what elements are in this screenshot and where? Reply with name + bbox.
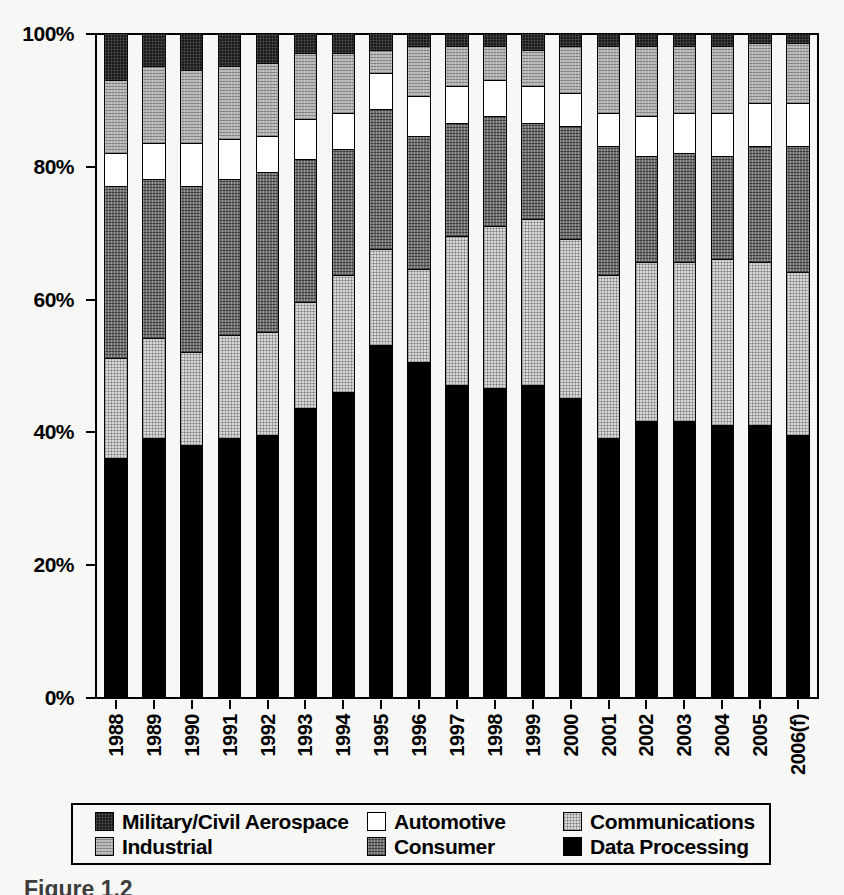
x-axis-tick-label: 1998 [484,714,507,757]
x-axis: 1988198919901991199219931994199519961997… [97,700,817,800]
legend-label: Consumer [394,835,495,859]
x-axis-tick-mark [191,700,193,709]
figure-container: 0%20%40%60%80%100% 198819891990199119921… [0,0,844,895]
bar-segment-military-civil-aerospace [446,34,467,47]
bar-segment-industrial [560,47,581,93]
bar-segment-military-civil-aerospace [787,34,808,44]
legend-item-industrial: Industrial [95,834,213,860]
bar-2002 [635,34,658,698]
bar-segment-data-processing [446,386,467,698]
bar-segment-communications [143,339,164,439]
bar-segment-consumer [598,147,619,276]
bar-segment-military-civil-aerospace [408,34,429,47]
bar-1997 [445,34,468,698]
bar-1994 [332,34,355,698]
x-axis-tick-mark [115,700,117,709]
legend-label: Communications [590,810,755,834]
bar-segment-industrial [370,51,391,74]
bar-segment-data-processing [408,363,429,698]
y-axis-tick-mark [86,33,95,35]
y-axis: 0%20%40%60%80%100% [0,0,86,712]
legend-label: Automotive [394,810,506,834]
y-axis-tick-label: 20% [33,553,74,577]
bar-2001 [597,34,620,698]
communications-swatch-icon [563,812,582,831]
bar-segment-military-civil-aerospace [333,34,354,54]
x-axis-tick-label: 2003 [673,714,696,757]
x-axis-tick-mark [380,700,382,709]
bar-segment-communications [787,273,808,436]
x-axis-tick-mark [608,700,610,709]
x-axis-tick-label: 2001 [598,714,621,757]
bar-segment-data-processing [749,426,770,698]
bar-segment-industrial [636,47,657,117]
x-axis-tick-mark [267,700,269,709]
bar-1988 [104,34,127,698]
bar-segment-data-processing [370,346,391,698]
bar-segment-consumer [674,154,695,264]
x-axis-tick-mark [797,700,799,709]
bar-segment-automotive [636,117,657,157]
legend-item-automotive: Automotive [367,809,506,835]
bar-segment-consumer [636,157,657,263]
x-axis-tick-mark [494,700,496,709]
y-axis-tick-label: 100% [22,22,74,46]
x-axis-tick-label: 1990 [181,714,204,757]
bar-segment-military-civil-aerospace [749,34,770,44]
bar-segment-consumer [143,180,164,339]
x-axis-tick-label: 2004 [711,714,734,757]
bar-segment-data-processing [105,459,126,698]
bar-segment-industrial [598,47,619,113]
bar-segment-automotive [257,137,278,174]
bar-segment-automotive [712,114,733,157]
bar-segment-communications [712,260,733,426]
bar-segment-communications [295,303,316,409]
bar-segment-data-processing [560,399,581,698]
bar-segment-military-civil-aerospace [105,34,126,80]
bar-segment-communications [370,250,391,346]
y-axis-tick-mark [86,431,95,433]
bar-segment-automotive [408,97,429,137]
bar-segment-industrial [522,51,543,88]
bar-1995 [369,34,392,698]
bar-segment-automotive [105,154,126,187]
x-axis-tick-label: 2002 [635,714,658,757]
bar-segment-consumer [522,124,543,220]
x-axis-tick-mark [570,700,572,709]
bar-segment-consumer [484,117,505,227]
chart-legend: Military/Civil AerospaceAutomotiveCommun… [71,803,771,865]
figure-caption: Figure 1.2 [24,876,133,895]
bar-2005 [748,34,771,698]
bar-1993 [294,34,317,698]
bar-segment-consumer [787,147,808,273]
x-axis-tick-mark [229,700,231,709]
bar-segment-military-civil-aerospace [712,34,733,47]
bar-segment-automotive [333,114,354,151]
bar-segment-consumer [105,187,126,360]
bar-segment-communications [446,237,467,386]
legend-item-military-civil-aerospace: Military/Civil Aerospace [95,809,349,835]
bar-segment-consumer [370,110,391,249]
x-axis-tick-label: 1995 [370,714,393,757]
bar-segment-data-processing [484,389,505,698]
x-axis-tick-label: 1994 [332,714,355,757]
military-swatch-icon [95,812,114,831]
x-axis-tick-mark [721,700,723,709]
bar-segment-data-processing [712,426,733,698]
bar-segment-communications [257,333,278,436]
bar-segment-consumer [560,127,581,240]
bar-2000 [559,34,582,698]
industrial-swatch-icon [95,837,114,856]
bar-segment-consumer [181,187,202,353]
legend-item-communications: Communications [563,809,755,835]
y-axis-tick-label: 0% [45,686,74,710]
x-axis-tick-mark [456,700,458,709]
automotive-swatch-icon [367,812,386,831]
bar-segment-military-civil-aerospace [295,34,316,54]
bar-segment-data-processing [598,439,619,698]
bar-1989 [142,34,165,698]
y-axis-tick-mark [86,697,95,699]
x-axis-tick-mark [645,700,647,709]
bar-1998 [483,34,506,698]
x-axis-tick-mark [683,700,685,709]
